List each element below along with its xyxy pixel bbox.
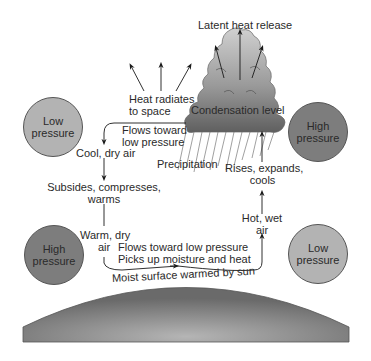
latent-heat-label: Latent heat release <box>198 19 292 31</box>
pressure-label: pressure <box>297 254 340 266</box>
subsides-label-line2: warms <box>44 193 164 205</box>
heat-radiates-label-line1: Heat radiates <box>129 93 194 105</box>
warm-dry-air-label-line1: Warm, dry <box>80 229 130 241</box>
pressure-label: pressure <box>33 255 76 267</box>
rises-label-line2: cools <box>225 174 300 186</box>
cumulonimbus-cloud <box>185 28 285 133</box>
pressure-zone-top-left: Lowpressure <box>23 97 83 157</box>
subsides-label-line1: Subsides, compresses, <box>44 181 164 193</box>
pressure-zone-top-right: Highpressure <box>288 102 348 162</box>
warm-dry-air-label-line2: air <box>98 241 110 253</box>
pressure-label: High <box>297 120 340 132</box>
pressure-label: Low <box>32 115 75 127</box>
condensation-level-label: Condensation level <box>191 104 285 116</box>
pressure-label: Low <box>297 242 340 254</box>
convection-diagram: Lowpressure Highpressure Highpressure Lo… <box>0 0 371 361</box>
flows-bottom-label-line2: Picks up moisture and heat <box>118 253 251 265</box>
flows-bottom-label-line1: Flows toward low pressure <box>118 241 248 253</box>
heat-radiates-label-line2: to space <box>129 105 171 117</box>
pressure-zone-bottom-left: Highpressure <box>24 225 84 285</box>
hot-wet-air-label-line1: Hot, wet <box>237 212 287 224</box>
rises-label-line1: Rises, expands, <box>225 162 300 174</box>
pressure-label: pressure <box>297 132 340 144</box>
pressure-label: High <box>33 243 76 255</box>
pressure-zone-bottom-right: Lowpressure <box>288 224 348 284</box>
precipitation-label: Precipitation <box>157 158 218 170</box>
cool-dry-air-label: Cool, dry air <box>76 147 135 159</box>
hot-wet-air-label-line2: air <box>237 224 287 236</box>
pressure-label: pressure <box>32 127 75 139</box>
flows-toward-top-label-line1: Flows toward <box>122 124 187 136</box>
heat-radiate-arrow-left <box>131 66 144 91</box>
heat-radiate-arrow-right <box>176 66 190 91</box>
earth-surface <box>23 288 349 343</box>
